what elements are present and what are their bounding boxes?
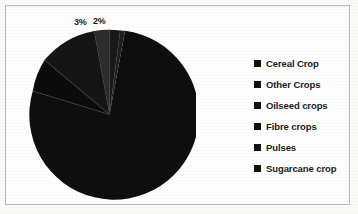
legend-item-oilseed-crops[interactable]: Oilseed crops: [254, 95, 350, 116]
legend-item-label: Other Crops: [266, 80, 320, 90]
pie-data-label-2-percent: 2%: [93, 17, 106, 26]
legend-item-label: Oilseed crops: [266, 101, 328, 111]
chart-legend: Cereal Crop Other Crops Oilseed crops Fi…: [254, 53, 350, 179]
legend-swatch-icon: [254, 60, 261, 67]
legend-item-other-crops[interactable]: Other Crops: [254, 74, 350, 95]
pie-plot-area: 3% 2%: [6, 6, 246, 204]
legend-swatch-icon: [254, 102, 261, 109]
legend-swatch-icon: [254, 165, 261, 172]
legend-item-label: Cereal Crop: [266, 59, 319, 69]
legend-swatch-icon: [254, 81, 261, 88]
legend-item-fibre-crops[interactable]: Fibre crops: [254, 116, 350, 137]
pie-data-label-3-percent: 3%: [74, 18, 87, 27]
chart-frame: 3% 2% Cereal Crop Other Crops Oilseed cr…: [5, 5, 350, 205]
legend-swatch-icon: [254, 123, 261, 130]
legend-item-sugarcane-crop[interactable]: Sugarcane crop: [254, 158, 350, 179]
legend-swatch-icon: [254, 144, 261, 151]
pie-chart: [23, 28, 196, 201]
legend-item-label: Sugarcane crop: [266, 164, 336, 174]
legend-item-label: Fibre crops: [266, 122, 317, 132]
legend-item-label: Pulses: [266, 143, 296, 153]
legend-item-cereal-crop[interactable]: Cereal Crop: [254, 53, 350, 74]
pie-svg: [23, 28, 196, 201]
legend-item-pulses[interactable]: Pulses: [254, 137, 350, 158]
